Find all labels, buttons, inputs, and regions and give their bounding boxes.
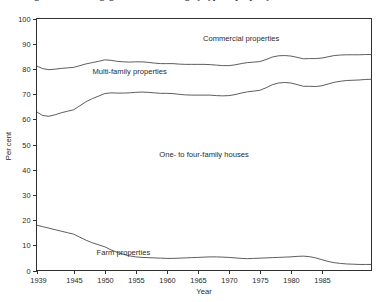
x-tick-label: 1960 [159,276,175,285]
y-tick-label: 50 [22,141,30,150]
mortgage-debt-area-chart: 0102030405060708090100 19391945195019551… [0,0,388,302]
y-axis-title: Per cent [4,131,13,160]
x-tick-label: 1970 [221,276,237,285]
boundary-one-to-four-family-houses [37,79,372,116]
y-tick-label: 30 [22,191,30,200]
x-tick-label: 1939 [30,276,46,285]
y-tick-label: 90 [22,40,30,49]
series-annotations: Commercial propertiesMulti-family proper… [92,34,279,257]
y-tick-label: 40 [22,166,30,175]
y-tick-label: 70 [22,90,30,99]
x-tick-label: 1965 [190,276,206,285]
annotation-farm-properties: Farm properties [97,248,151,257]
x-tick-label: 1975 [252,276,268,285]
y-tick-label: 20 [22,216,30,225]
annotation-one-to-four-family-houses: One- to four-family houses [159,150,249,159]
plot-frame [37,19,372,271]
x-tick-label: 1980 [283,276,299,285]
y-tick-label: 10 [22,241,30,250]
y-tick-label: 60 [22,115,30,124]
annotation-multi-family-properties: Multi-family properties [92,67,166,76]
boundary-farm-properties [37,225,372,264]
x-axis: 1939194519501955196019651970197519801985 [30,271,330,285]
y-tick-label: 80 [22,65,30,74]
x-tick-label: 1985 [314,276,330,285]
boundary-multi-family-properties [37,55,372,70]
annotation-commercial-properties: Commercial properties [203,34,280,43]
x-axis-title: Year [196,287,212,296]
y-axis: 0102030405060708090100 [18,15,36,276]
series-boundaries [37,55,372,265]
y-tick-label: 100 [18,15,30,24]
x-tick-label: 1950 [97,276,113,285]
x-tick-label: 1945 [66,276,82,285]
figure-container: Figure 5.5Mortgage debt outstanding by t… [0,0,388,302]
x-tick-label: 1955 [128,276,144,285]
